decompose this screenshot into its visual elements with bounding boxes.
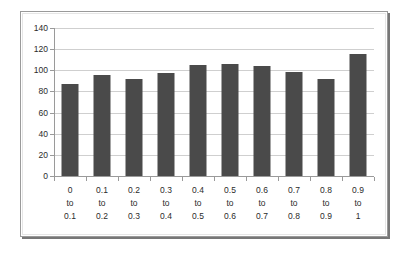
x-axis-tick bbox=[310, 177, 311, 181]
x-axis-category-label: 0.4to0.5 bbox=[182, 184, 214, 223]
bar[interactable] bbox=[62, 84, 79, 176]
bar-slot bbox=[310, 28, 342, 176]
x-axis-label-line: 0.9 bbox=[342, 184, 374, 197]
x-axis-labels: 0to0.10.1to0.20.2to0.30.3to0.40.4to0.50.… bbox=[54, 184, 374, 232]
x-axis-label-line: 1 bbox=[342, 210, 374, 223]
x-axis-label-line: 0.7 bbox=[246, 210, 278, 223]
x-axis-label-line: to bbox=[182, 197, 214, 210]
x-axis-label-line: 0 bbox=[54, 184, 86, 197]
y-axis-tick-label: 40 bbox=[39, 129, 48, 138]
x-axis-category-label: 0.5to0.6 bbox=[214, 184, 246, 223]
y-axis-tick-label: 80 bbox=[39, 87, 48, 96]
x-axis-tick bbox=[342, 177, 343, 181]
x-axis-tick bbox=[214, 177, 215, 181]
x-axis-tick bbox=[150, 177, 151, 181]
bar[interactable] bbox=[94, 75, 111, 176]
x-axis-label-line: 0.4 bbox=[182, 184, 214, 197]
bar-slot bbox=[246, 28, 278, 176]
bar-chart: 020406080100120140 0to0.10.1to0.20.2to0.… bbox=[21, 12, 387, 236]
x-axis-category-label: 0.9to1 bbox=[342, 184, 374, 223]
x-axis-category-label: 0.2to0.3 bbox=[118, 184, 150, 223]
x-axis-label-line: 0.6 bbox=[214, 210, 246, 223]
x-axis-category-label: 0.3to0.4 bbox=[150, 184, 182, 223]
x-axis-label-line: 0.9 bbox=[310, 210, 342, 223]
x-axis-category-label: 0.8to0.9 bbox=[310, 184, 342, 223]
x-axis-category-label: 0.7to0.8 bbox=[278, 184, 310, 223]
x-axis-tick bbox=[54, 177, 55, 181]
bar[interactable] bbox=[286, 72, 303, 176]
y-axis-tick-label: 140 bbox=[34, 24, 48, 33]
bar[interactable] bbox=[190, 65, 207, 176]
x-axis-category-label: 0to0.1 bbox=[54, 184, 86, 223]
x-axis-label-line: 0.7 bbox=[278, 184, 310, 197]
bar-slot bbox=[342, 28, 374, 176]
x-axis-label-line: to bbox=[246, 197, 278, 210]
x-axis-label-line: to bbox=[310, 197, 342, 210]
chart-frame: 020406080100120140 0to0.10.1to0.20.2to0.… bbox=[20, 11, 388, 237]
bar[interactable] bbox=[318, 79, 335, 176]
x-axis-label-line: to bbox=[214, 197, 246, 210]
bar-slot bbox=[54, 28, 86, 176]
x-axis-label-line: 0.3 bbox=[150, 184, 182, 197]
bar-slot bbox=[150, 28, 182, 176]
x-axis-tick bbox=[246, 177, 247, 181]
x-axis-ticks bbox=[54, 177, 374, 182]
bar-slot bbox=[278, 28, 310, 176]
y-axis-tick-label: 120 bbox=[34, 45, 48, 54]
bar-slot bbox=[118, 28, 150, 176]
x-axis-tick bbox=[118, 177, 119, 181]
bar[interactable] bbox=[222, 64, 239, 176]
bar-slot bbox=[214, 28, 246, 176]
bar[interactable] bbox=[126, 79, 143, 176]
x-axis-label-line: to bbox=[54, 197, 86, 210]
bar[interactable] bbox=[350, 54, 367, 176]
bar-slot bbox=[182, 28, 214, 176]
x-axis-tick bbox=[182, 177, 183, 181]
bar[interactable] bbox=[158, 73, 175, 176]
x-axis-label-line: 0.8 bbox=[278, 210, 310, 223]
y-axis-tick-label: 0 bbox=[43, 172, 48, 181]
x-axis-label-line: 0.4 bbox=[150, 210, 182, 223]
x-axis-label-line: 0.2 bbox=[118, 184, 150, 197]
x-axis-label-line: 0.6 bbox=[246, 184, 278, 197]
x-axis-label-line: 0.1 bbox=[54, 210, 86, 223]
x-axis-category-label: 0.1to0.2 bbox=[86, 184, 118, 223]
x-axis-label-line: 0.2 bbox=[86, 210, 118, 223]
x-axis-label-line: to bbox=[150, 197, 182, 210]
x-axis-label-line: 0.5 bbox=[182, 210, 214, 223]
bar-slot bbox=[86, 28, 118, 176]
y-axis-tick-label: 60 bbox=[39, 108, 48, 117]
x-axis-label-line: 0.8 bbox=[310, 184, 342, 197]
bar-series bbox=[54, 28, 374, 176]
x-axis-label-line: to bbox=[278, 197, 310, 210]
x-axis-tick bbox=[278, 177, 279, 181]
x-axis-label-line: to bbox=[342, 197, 374, 210]
x-axis-label-line: 0.1 bbox=[86, 184, 118, 197]
x-axis-label-line: 0.3 bbox=[118, 210, 150, 223]
x-axis-tick bbox=[374, 177, 375, 181]
x-axis-label-line: to bbox=[118, 197, 150, 210]
x-axis-category-label: 0.6to0.7 bbox=[246, 184, 278, 223]
x-axis-label-line: 0.5 bbox=[214, 184, 246, 197]
bar[interactable] bbox=[254, 66, 271, 176]
y-axis-tick-label: 20 bbox=[39, 151, 48, 160]
y-axis-tick-label: 100 bbox=[34, 66, 48, 75]
x-axis-tick bbox=[86, 177, 87, 181]
x-axis-label-line: to bbox=[86, 197, 118, 210]
